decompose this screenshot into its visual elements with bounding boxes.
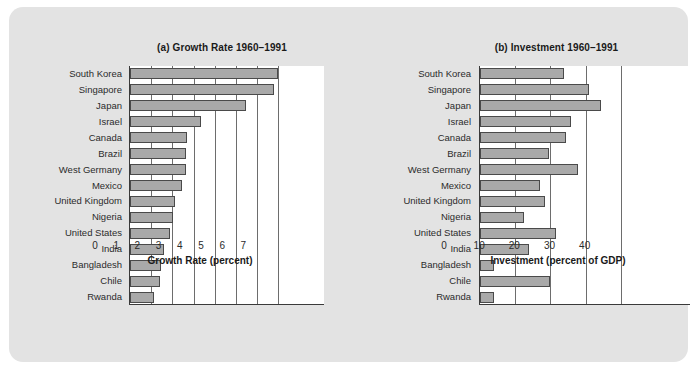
bar-row[interactable] [130, 84, 325, 95]
category-label: Israel [448, 117, 471, 127]
x-axis-title: Growth Rate (percent) [95, 255, 305, 266]
bar-row[interactable] [130, 212, 325, 223]
chart-title: (b) Investment 1960–1991 [348, 42, 697, 53]
plot-area [479, 66, 690, 305]
category-label: Rwanda [87, 292, 122, 302]
category-axis-labels: South KoreaSingaporeJapanIsraelCanadaBra… [383, 66, 475, 304]
bar-row[interactable] [480, 228, 691, 239]
x-tick-label: 4 [177, 240, 183, 251]
bar-row[interactable] [480, 116, 691, 127]
bar-row[interactable] [130, 68, 325, 79]
category-axis-labels: South KoreaSingaporeJapanIsraelCanadaBra… [34, 66, 126, 304]
category-label: Japan [96, 101, 122, 111]
bar[interactable] [130, 212, 173, 223]
category-label: West Germany [59, 165, 122, 175]
bar[interactable] [480, 68, 564, 79]
x-tick-label: 5 [198, 240, 204, 251]
bar[interactable] [130, 148, 186, 159]
x-axis-tick-labels: 010203040 [444, 240, 654, 256]
bar[interactable] [130, 292, 154, 303]
x-tick-label: 40 [579, 240, 590, 251]
category-label: United Kingdom [403, 196, 471, 206]
bar[interactable] [480, 276, 550, 287]
bar-row[interactable] [480, 292, 691, 303]
bar-row[interactable] [130, 100, 325, 111]
category-label: United States [414, 228, 471, 238]
category-label: Chile [100, 276, 122, 286]
x-tick-label: 3 [156, 240, 162, 251]
x-tick-label: 2 [135, 240, 141, 251]
bar[interactable] [130, 132, 187, 143]
category-label: United Kingdom [54, 196, 122, 206]
bar[interactable] [480, 228, 556, 239]
bar-row[interactable] [130, 276, 325, 287]
bar[interactable] [480, 100, 601, 111]
x-axis-tick-labels: 01234567 [95, 240, 289, 256]
chart-panel-investment: (b) Investment 1960–1991 South KoreaSing… [348, 0, 697, 371]
bar-row[interactable] [130, 132, 325, 143]
bar-row[interactable] [480, 164, 691, 175]
bar[interactable] [480, 164, 578, 175]
bar[interactable] [480, 292, 494, 303]
category-label: Japan [445, 101, 471, 111]
category-label: Brazil [98, 149, 122, 159]
category-label: Nigeria [441, 212, 471, 222]
bar-row[interactable] [130, 228, 325, 239]
x-tick-label: 30 [544, 240, 555, 251]
x-axis-title: Investment (percent of GDP) [444, 255, 672, 266]
bar[interactable] [130, 116, 201, 127]
category-label: Canada [438, 133, 471, 143]
category-label: Mexico [441, 181, 471, 191]
bar-row[interactable] [130, 196, 325, 207]
category-label: Singapore [428, 85, 471, 95]
bar-row[interactable] [130, 292, 325, 303]
category-label: South Korea [418, 69, 471, 79]
bar[interactable] [480, 132, 566, 143]
x-tick-label: 0 [441, 240, 447, 251]
bar[interactable] [480, 148, 549, 159]
bar-row[interactable] [480, 68, 691, 79]
bar[interactable] [130, 276, 160, 287]
x-tick-label: 1 [113, 240, 119, 251]
category-label: Chile [449, 276, 471, 286]
bar-row[interactable] [480, 132, 691, 143]
bar[interactable] [480, 84, 589, 95]
x-tick-label: 7 [241, 240, 247, 251]
chart-title: (a) Growth Rate 1960–1991 [0, 42, 396, 53]
category-label: Rwanda [436, 292, 471, 302]
category-label: Brazil [447, 149, 471, 159]
x-tick-label: 0 [92, 240, 98, 251]
bar[interactable] [480, 196, 545, 207]
category-label: Mexico [92, 181, 122, 191]
figure-root: (a) Growth Rate 1960–1991 South KoreaSin… [0, 0, 697, 371]
chart-panel-growth-rate: (a) Growth Rate 1960–1991 South KoreaSin… [0, 0, 348, 371]
bar-row[interactable] [480, 212, 691, 223]
bar-row[interactable] [130, 116, 325, 127]
category-label: Singapore [79, 85, 122, 95]
x-tick-label: 20 [509, 240, 520, 251]
bar-row[interactable] [130, 180, 325, 191]
bar-row[interactable] [130, 148, 325, 159]
bar[interactable] [130, 68, 278, 79]
bar-row[interactable] [480, 196, 691, 207]
bar-row[interactable] [480, 276, 691, 287]
bar[interactable] [480, 212, 524, 223]
bar[interactable] [130, 180, 182, 191]
bar[interactable] [130, 228, 170, 239]
bar[interactable] [480, 180, 540, 191]
bar-row[interactable] [480, 148, 691, 159]
bar-row[interactable] [480, 180, 691, 191]
bar[interactable] [130, 84, 274, 95]
bar-row[interactable] [480, 100, 691, 111]
bar-row[interactable] [130, 164, 325, 175]
bar[interactable] [130, 196, 175, 207]
x-tick-label: 6 [219, 240, 225, 251]
bar[interactable] [130, 100, 246, 111]
category-label: United States [65, 228, 122, 238]
plot-area [129, 66, 324, 305]
bar-row[interactable] [480, 84, 691, 95]
bar[interactable] [480, 116, 571, 127]
category-label: South Korea [69, 69, 122, 79]
bar[interactable] [130, 164, 186, 175]
category-label: Israel [99, 117, 122, 127]
